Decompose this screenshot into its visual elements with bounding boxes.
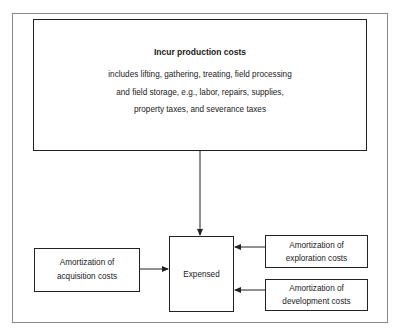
box-label-line: exploration costs (286, 252, 347, 265)
description-line: property taxes, and severance taxes (108, 101, 291, 119)
production-costs-box: Incur production costs includes lifting,… (33, 19, 367, 151)
box-label-line: Amortization of (289, 239, 344, 252)
description-line: includes lifting, gathering, treating, f… (108, 66, 291, 84)
description-line: and field storage, e.g., labor, repairs,… (108, 84, 291, 102)
expensed-box: Expensed (169, 236, 234, 312)
box-label-line: Amortization of (60, 256, 115, 270)
production-costs-title: Incur production costs (154, 47, 246, 57)
production-costs-description: includes lifting, gathering, treating, f… (108, 66, 291, 119)
development-amortization-box: Amortization of development costs (265, 279, 368, 311)
box-label-line: Amortization of (289, 282, 344, 295)
box-label-line: development costs (282, 295, 350, 308)
box-label-line: acquisition costs (57, 270, 117, 284)
acquisition-amortization-box: Amortization of acquisition costs (34, 248, 140, 292)
exploration-amortization-box: Amortization of exploration costs (265, 235, 368, 268)
expensed-label: Expensed (183, 268, 219, 281)
